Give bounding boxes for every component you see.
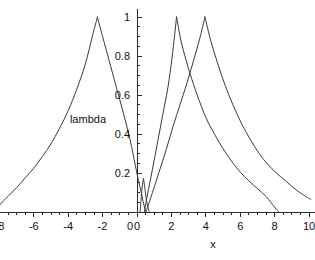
y-tick-label: 0.6 [115,89,130,101]
x-tick-label: 2 [168,220,174,232]
y-tick-label: 0.4 [115,128,130,140]
y-tick-label: 0.2 [115,167,130,179]
x-tick-label: 6 [237,220,243,232]
y-tick-label: 0.8 [115,50,130,62]
x-tick-label: 10 [303,220,315,232]
x-tick-label: -4 [63,220,73,232]
x-tick-label: 8 [272,220,278,232]
curve-right [146,17,205,212]
y-tick-label: 0 [127,220,133,232]
y-axis-title: lambda [70,113,107,125]
curve-right [205,17,311,199]
plot-canvas: -8-6-4-2024681000.20.40.60.81 lambda x [0,0,315,260]
curve-middle [144,17,176,212]
x-tick-label: -8 [0,220,4,232]
x-axis-title: x [210,238,216,250]
axes-group [0,9,315,212]
curves-group [0,17,311,212]
x-tick-label: -6 [29,220,39,232]
curve-narrow-spike [140,179,143,212]
chart-svg: -8-6-4-2024681000.20.40.60.81 lambda x [0,0,315,260]
y-tick-label: 1 [124,11,130,23]
x-tick-label: -2 [98,220,108,232]
x-tick-label: 4 [203,220,209,232]
x-tick-label: 0 [134,220,140,232]
curve-middle [177,17,279,212]
